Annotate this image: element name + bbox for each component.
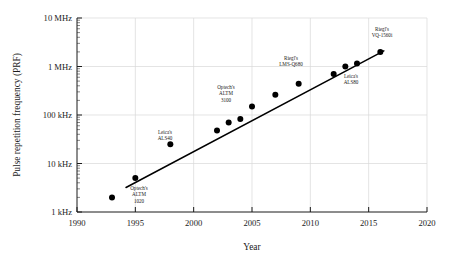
annotation-line: Leica's xyxy=(344,73,358,79)
y-tick-label-3: 1 MHz xyxy=(48,62,72,72)
data-point-7 xyxy=(272,92,278,98)
x-tick-label-4: 2010 xyxy=(302,218,319,228)
data-point-10 xyxy=(342,64,348,70)
data-point-2 xyxy=(167,141,173,147)
y-axis-title: Pulse repetition frequency (PRF) xyxy=(12,53,23,177)
annotation-leica-als80: Leica'sALS80 xyxy=(344,73,359,85)
x-axis-title: Year xyxy=(243,242,261,252)
data-point-8 xyxy=(296,81,302,87)
data-point-1 xyxy=(132,175,138,181)
x-tick-label-1: 1995 xyxy=(127,218,144,228)
annotation-line: ALTM xyxy=(219,90,233,96)
annotation-line: ALTM xyxy=(132,191,146,197)
chart-figure: 1 kHz10 kHz100 kHz1 MHz10 MHz 1990199520… xyxy=(0,0,451,258)
annotation-line: Riegl's xyxy=(284,55,298,61)
annotation-leica-als40: Leica'sALS40 xyxy=(158,129,173,141)
data-point-3 xyxy=(214,127,220,133)
y-tick-label-2: 100 kHz xyxy=(43,110,73,120)
annotation-line: ALS40 xyxy=(158,135,173,141)
annotation-line: Leica's xyxy=(158,129,172,135)
annotation-line: Riegl's xyxy=(375,26,389,32)
y-tick-label-1: 10 kHz xyxy=(47,159,72,169)
x-tick-label-5: 2015 xyxy=(360,218,377,228)
data-point-5 xyxy=(237,116,243,122)
annotation-line: ALS80 xyxy=(344,79,359,85)
annotation-line: LMS-Q680 xyxy=(279,61,303,67)
y-tick-label-0: 1 kHz xyxy=(51,207,72,217)
y-tick-label-4: 10 MHz xyxy=(44,13,73,23)
x-tick-label-6: 2020 xyxy=(418,218,435,228)
annotation-line: 3100 xyxy=(221,97,232,103)
data-point-12 xyxy=(377,49,383,55)
annotation-line: Optech's xyxy=(217,84,235,90)
x-tick-label-2: 2000 xyxy=(185,218,202,228)
data-point-0 xyxy=(109,194,115,200)
annotation-line: Optech's xyxy=(130,185,148,191)
annotation-line: 1020 xyxy=(134,198,145,204)
x-tick-label-3: 2005 xyxy=(243,218,260,228)
data-point-9 xyxy=(331,71,337,77)
data-point-11 xyxy=(354,61,360,67)
annotation-line: VQ-1560i xyxy=(372,32,393,38)
prf-vs-year-scatter-chart: 1 kHz10 kHz100 kHz1 MHz10 MHz 1990199520… xyxy=(0,0,451,258)
data-point-4 xyxy=(226,120,232,126)
data-point-6 xyxy=(249,103,255,109)
x-tick-label-0: 1990 xyxy=(68,218,85,228)
